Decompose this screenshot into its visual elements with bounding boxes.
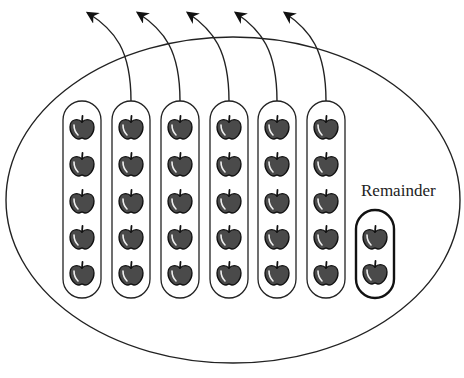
apple-icon xyxy=(119,153,143,176)
apple-icon xyxy=(119,116,143,139)
apple-icon xyxy=(314,116,338,139)
apple-icon xyxy=(217,190,241,213)
apple-icon xyxy=(265,190,289,213)
group-5 xyxy=(258,101,296,298)
apple-icon xyxy=(314,226,338,249)
arrow-group-4 xyxy=(188,13,229,101)
apple-icon xyxy=(70,153,94,176)
remainder-pill xyxy=(356,210,394,298)
apple-icon xyxy=(265,153,289,176)
apple-icon xyxy=(217,116,241,139)
apple-icon xyxy=(119,190,143,213)
apple-icon xyxy=(168,190,192,213)
apple-icon xyxy=(168,262,192,285)
group-6 xyxy=(307,101,345,298)
arrow-group-5 xyxy=(236,13,277,101)
apple-icon xyxy=(314,153,338,176)
apple-icon xyxy=(363,226,387,249)
apple-icon xyxy=(363,261,387,284)
apple-icon xyxy=(265,116,289,139)
arrow-group-3 xyxy=(138,13,180,101)
apple-icon xyxy=(70,116,94,139)
division-diagram: Remainder xyxy=(0,0,464,378)
apple-icon xyxy=(119,226,143,249)
remainder-label: Remainder xyxy=(361,181,436,200)
apple-icon xyxy=(217,262,241,285)
apple-icon xyxy=(217,226,241,249)
apple-icon xyxy=(168,226,192,249)
apple-icon xyxy=(265,262,289,285)
apple-icon xyxy=(217,153,241,176)
apple-icon xyxy=(168,153,192,176)
apple-icon xyxy=(314,190,338,213)
apple-icon xyxy=(70,226,94,249)
apple-icon xyxy=(70,262,94,285)
group-2 xyxy=(112,101,150,298)
arrow-group-2 xyxy=(88,13,131,101)
apple-icon xyxy=(314,262,338,285)
group-1 xyxy=(63,101,101,298)
apple-icon xyxy=(70,190,94,213)
group-3 xyxy=(161,101,199,298)
apple-icon xyxy=(119,262,143,285)
arrow-group-6 xyxy=(285,13,326,101)
remainder-group xyxy=(356,210,394,298)
apple-icon xyxy=(168,116,192,139)
apple-icon xyxy=(265,226,289,249)
group-4 xyxy=(210,101,248,298)
